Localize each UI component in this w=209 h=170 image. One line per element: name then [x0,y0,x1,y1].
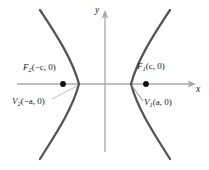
hyperbola-diagram-svg [0,0,209,170]
y-axis-label: y [95,6,99,16]
y-axis [102,10,109,152]
hyperbola-figure: y x F2(−c, 0) F1(c, 0) V2(−a, 0) V1(a, 0… [0,0,209,170]
vertex-left-label: V2(−a, 0) [12,97,45,107]
focus-left-label: F2(−c, 0) [23,63,56,73]
x-axis-label: x [196,85,200,95]
vertex-left-coords: (−a, 0) [21,96,45,106]
focus-point-left [60,81,66,87]
focus-left-coords: (−c, 0) [32,62,56,72]
leader-line-vertex-left [52,86,77,99]
vertex-right-coords: (a, 0) [153,97,172,107]
focus-point-right [143,81,149,87]
focus-right-coords: (c, 0) [146,61,165,71]
vertex-right-label: V1(a, 0) [144,98,172,108]
x-axis [17,81,196,88]
focus-right-label: F1(c, 0) [137,62,165,72]
